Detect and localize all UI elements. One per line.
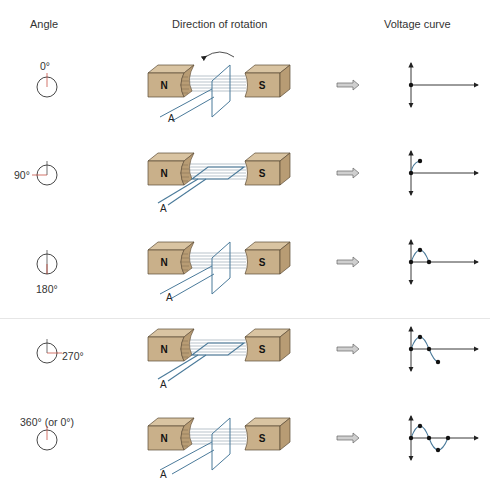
svg-text:A: A: [160, 469, 167, 480]
row-0-degrees: A: [37, 52, 478, 124]
row-90-degrees: A: [32, 151, 478, 214]
generator-diagram: N S: [0, 0, 490, 490]
svg-text:A: A: [166, 292, 173, 303]
svg-text:A: A: [160, 203, 167, 214]
row-180-degrees: A: [37, 240, 478, 303]
row-270-degrees: A: [37, 327, 478, 390]
rotation-arrow-icon: [205, 52, 234, 57]
loop-label-a: A: [168, 113, 175, 124]
row-360-degrees: A: [37, 416, 478, 480]
svg-text:A: A: [160, 379, 167, 390]
